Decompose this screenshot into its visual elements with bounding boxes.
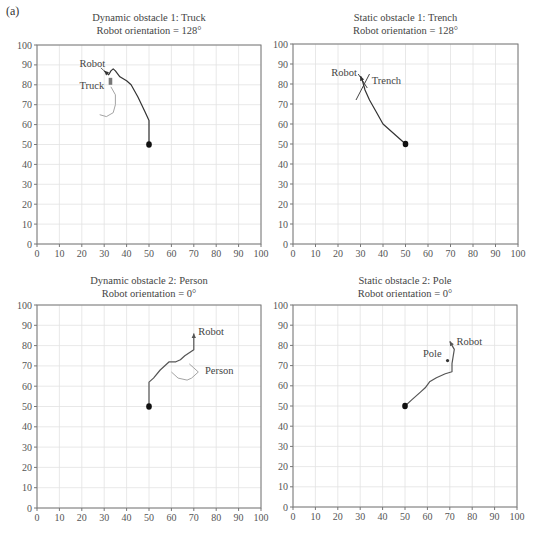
y-tick-label: 20: [278, 461, 288, 472]
x-tick-label: 50: [400, 511, 410, 522]
y-tick-label: 70: [278, 360, 288, 371]
annotation-pole: Pole: [423, 348, 442, 359]
y-tick-label: 30: [278, 441, 288, 452]
y-tick-label: 60: [278, 380, 288, 391]
y-tick-label: 10: [278, 481, 288, 492]
x-tick-label: 30: [355, 511, 365, 522]
x-tick-label: 40: [378, 511, 388, 522]
x-tick-label: 0: [291, 511, 296, 522]
y-tick-label: 90: [278, 320, 288, 331]
y-tick-label: 80: [278, 340, 288, 351]
chart-pole: 0102030405060708090100010203040506070809…: [0, 0, 542, 540]
pole-obstacle: [446, 359, 449, 362]
x-tick-label: 20: [333, 511, 343, 522]
y-tick-label: 40: [278, 421, 288, 432]
y-tick-label: 100: [273, 300, 288, 311]
start-point-marker: [402, 403, 408, 410]
y-tick-label: 0: [283, 502, 288, 513]
annotation-robot: Robot: [457, 336, 483, 347]
x-tick-label: 100: [510, 511, 525, 522]
y-tick-label: 50: [278, 401, 288, 412]
x-tick-label: 90: [490, 511, 500, 522]
x-tick-label: 80: [467, 511, 477, 522]
x-tick-label: 10: [310, 511, 320, 522]
x-tick-label: 70: [445, 511, 455, 522]
axes: 0102030405060708090100010203040506070809…: [273, 300, 525, 523]
x-tick-label: 60: [422, 511, 432, 522]
